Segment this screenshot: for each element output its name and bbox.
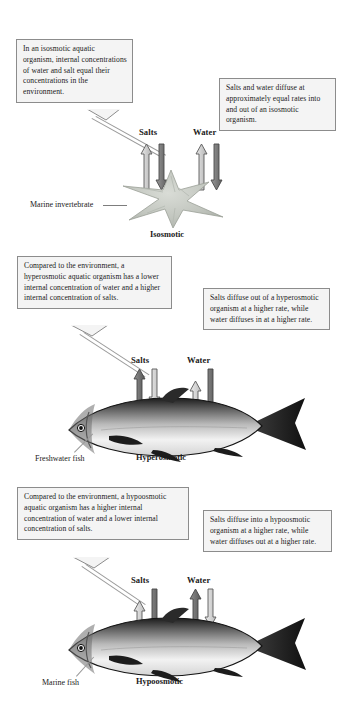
callout-hypoosmotic-right: Salts diffuse into a hypoosmotic organis…: [203, 510, 332, 552]
arrow-label-salts-isosmotic: Salts: [139, 127, 157, 137]
arrow-label-salts-hypoosmotic: Salts: [131, 575, 149, 585]
callout-hyperosmotic-right: Salts diffuse out of a hyperosmotic orga…: [203, 288, 330, 330]
panel-hypoosmotic: Compared to the environment, a hypoosmot…: [0, 472, 351, 706]
starfish-illustration: [113, 168, 238, 230]
panel-hyperosmotic: Compared to the environment, a hyperosmo…: [0, 238, 351, 472]
callout-hyperosmotic-left: Compared to the environment, a hyperosmo…: [17, 256, 172, 309]
arrow-label-water-hypoosmotic: Water: [187, 575, 210, 585]
callout-isosmotic-right: Salts and water diffuse at approximately…: [219, 78, 336, 131]
arrow-label-water-hyperosmotic: Water: [187, 355, 210, 365]
organism-label-freshwater-fish: Freshwater fish: [35, 454, 85, 463]
organism-label-marine-fish: Marine fish: [42, 678, 79, 687]
callout-hypoosmotic-left: Compared to the environment, a hypoosmot…: [17, 487, 189, 540]
callout-tail-hyperosmotic-left: [70, 325, 116, 337]
state-label-hypoosmotic: Hypoosmotic: [136, 677, 183, 686]
panel-isosmotic: In an isosmotic aquatic organism, intern…: [0, 0, 351, 238]
arrow-label-salts-hyperosmotic: Salts: [131, 355, 149, 365]
callout-isosmotic-left: In an isosmotic aquatic organism, intern…: [16, 39, 133, 103]
state-label-hyperosmotic: Hyperosmotic: [136, 453, 186, 462]
fish-illustration-freshwater: [57, 386, 310, 462]
callout-tail-hypoosmotic-left: [72, 557, 118, 569]
fish-illustration-marine: [57, 606, 310, 682]
organism-label-marine-invertebrate: Marine invertebrate: [30, 200, 93, 209]
arrow-label-water-isosmotic: Water: [193, 127, 216, 137]
leader-line-marine-invertebrate: [103, 205, 127, 206]
